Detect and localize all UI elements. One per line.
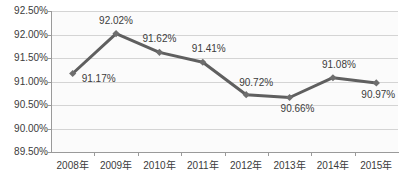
data-point-label: 91.41% [185,44,233,54]
data-point-label: 91.17% [75,74,123,84]
data-series [0,0,405,182]
data-point-label: 90.72% [232,78,280,88]
data-point-label: 92.02% [92,16,140,26]
data-point-label: 91.08% [315,60,363,70]
data-point-label: 90.97% [354,90,402,100]
data-point-marker [373,79,380,86]
data-point-label: 90.66% [274,104,322,114]
line-chart: 92.50%92.00%91.50%91.00%90.50%90.00%89.5… [0,0,405,182]
data-point-label: 91.62% [135,34,183,44]
